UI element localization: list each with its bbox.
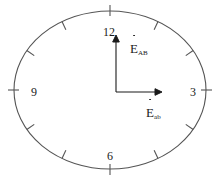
clock-number-3: 3 [190, 86, 196, 98]
clock-number-6: 6 [107, 150, 113, 162]
horizontal-vector-subscript: ab [154, 113, 161, 121]
horizontal-vector-symbol: E [146, 105, 154, 120]
clock-number-9: 9 [31, 86, 37, 98]
clock-number-9-label: 9 [31, 85, 37, 99]
vertical-vector-label: EAB [130, 40, 148, 57]
clock-number-12: 12 [103, 26, 115, 38]
dot-accent-icon [149, 99, 151, 101]
vertical-vector-subscript: AB [138, 49, 148, 57]
vertical-vector-symbol-text: E [130, 41, 138, 56]
horizontal-vector-label: Eab [146, 104, 161, 121]
clock-number-6-label: 6 [107, 149, 113, 163]
clock-number-3-label: 3 [190, 85, 196, 99]
horizontal-vector-symbol-text: E [146, 105, 154, 120]
clock-vector-figure: 12 3 6 9 EAB Eab [0, 0, 224, 178]
clock-number-12-label: 12 [103, 25, 115, 39]
dot-accent-icon [133, 35, 135, 37]
vertical-vector-symbol: E [130, 41, 138, 56]
